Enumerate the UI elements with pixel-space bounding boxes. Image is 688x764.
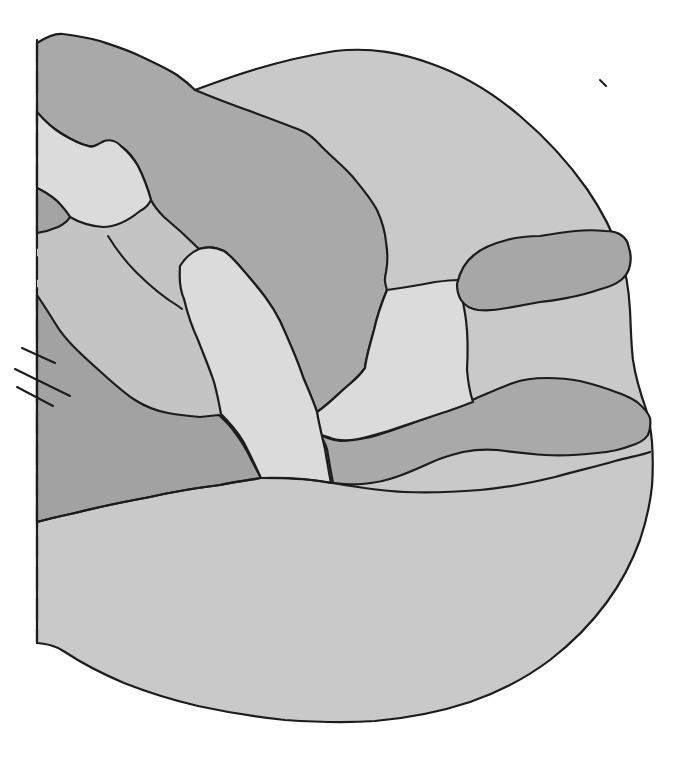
figure-canvas bbox=[0, 0, 688, 764]
ink-speck bbox=[600, 80, 606, 86]
illustration-svg bbox=[0, 0, 688, 764]
